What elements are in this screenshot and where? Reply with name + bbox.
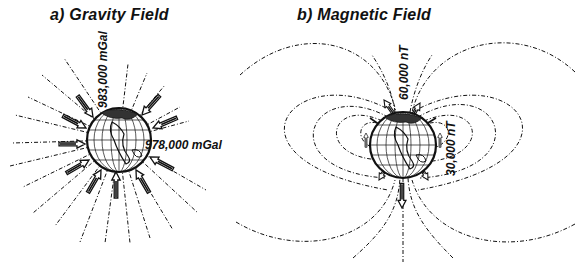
magnetic-polar-label: 60,000 nT — [397, 45, 411, 100]
gravity-globe — [87, 108, 151, 172]
diagram-canvas — [0, 0, 584, 270]
magnetic-equatorial-label: 30,000 nT — [444, 121, 458, 176]
magnetic-globe — [370, 112, 436, 178]
gravity-polar-label: 983,000 mGal — [96, 31, 110, 108]
gravity-equatorial-label: 978,000 mGal — [145, 138, 222, 152]
